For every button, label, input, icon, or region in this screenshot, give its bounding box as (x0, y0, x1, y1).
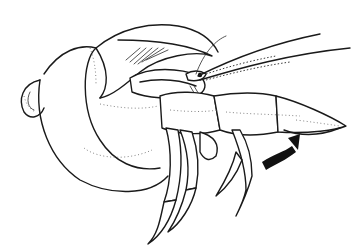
hermit-crab-drawing (0, 0, 362, 252)
curved-arrow-icon (262, 134, 300, 170)
antennae (196, 34, 350, 80)
illustration-canvas: Hermit crab in spiral shell (0, 0, 362, 252)
walking-legs (148, 128, 252, 244)
claw (160, 92, 346, 135)
